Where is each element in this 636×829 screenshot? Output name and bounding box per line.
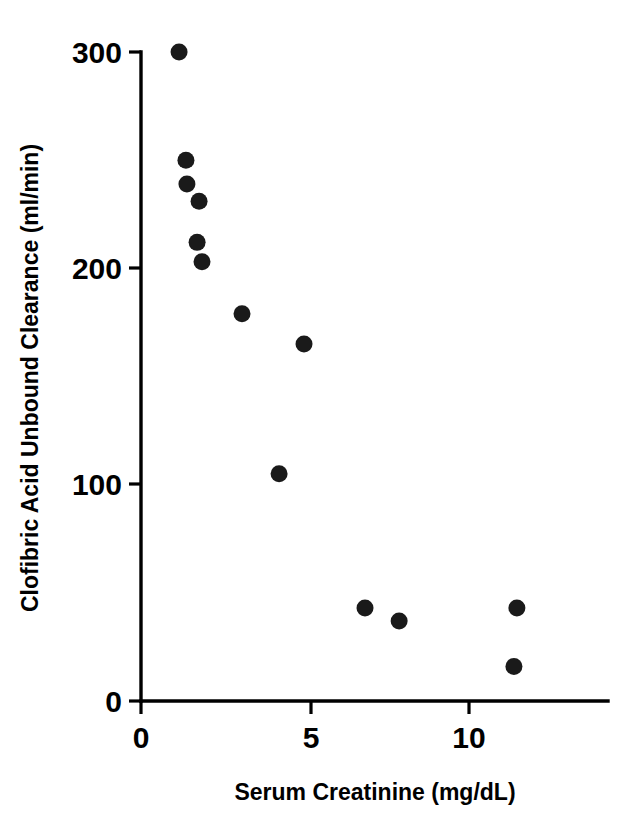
x-tick-label-5: 5 bbox=[303, 721, 320, 754]
y-tick-label-200: 200 bbox=[72, 252, 122, 285]
x-tick-label-0: 0 bbox=[133, 721, 150, 754]
data-point bbox=[271, 465, 288, 482]
x-axis-ticks bbox=[141, 701, 469, 714]
y-tick-label-0: 0 bbox=[105, 685, 122, 718]
data-point bbox=[505, 658, 522, 675]
scatter-plot-figure: 300 200 100 0 0 5 10 Serum Creatinine (m… bbox=[0, 0, 636, 829]
y-axis-tick-labels: 300 200 100 0 bbox=[72, 36, 122, 718]
y-axis-title: Clofibric Acid Unbound Clearance (ml/min… bbox=[17, 144, 43, 612]
x-axis-tick-labels: 0 5 10 bbox=[133, 721, 486, 754]
y-tick-label-100: 100 bbox=[72, 468, 122, 501]
data-points-group bbox=[171, 44, 526, 675]
data-point bbox=[171, 44, 188, 61]
data-point bbox=[508, 599, 525, 616]
data-point bbox=[234, 305, 251, 322]
x-axis-title: Serum Creatinine (mg/dL) bbox=[234, 779, 515, 805]
axes-group bbox=[141, 52, 608, 701]
data-point bbox=[178, 175, 195, 192]
x-tick-label-10: 10 bbox=[452, 721, 485, 754]
data-point bbox=[391, 612, 408, 629]
y-axis-ticks bbox=[129, 52, 141, 701]
data-point bbox=[357, 599, 374, 616]
data-point bbox=[296, 336, 313, 353]
data-point bbox=[194, 253, 211, 270]
data-point bbox=[177, 152, 194, 169]
y-tick-label-300: 300 bbox=[72, 36, 122, 69]
data-point bbox=[191, 193, 208, 210]
data-point bbox=[189, 234, 206, 251]
plot-canvas: 300 200 100 0 0 5 10 Serum Creatinine (m… bbox=[0, 0, 636, 829]
